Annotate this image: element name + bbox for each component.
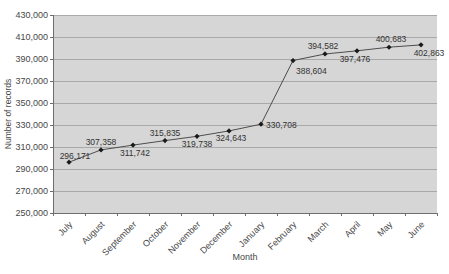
svg-text:April: April [343, 219, 363, 239]
svg-text:319,738: 319,738 [182, 139, 213, 149]
line-chart: 250,000270,000290,000310,000330,000350,0… [0, 0, 449, 274]
svg-text:June: June [406, 219, 427, 240]
svg-text:March: March [306, 219, 331, 244]
svg-text:296,171: 296,171 [60, 151, 91, 161]
svg-text:324,643: 324,643 [216, 133, 247, 143]
svg-text:307,358: 307,358 [86, 137, 117, 147]
svg-text:390,000: 390,000 [15, 54, 48, 64]
svg-text:370,000: 370,000 [15, 76, 48, 86]
chart-canvas: 250,000270,000290,000310,000330,000350,0… [0, 0, 449, 274]
svg-text:330,000: 330,000 [15, 120, 48, 130]
svg-text:310,000: 310,000 [15, 142, 48, 152]
svg-text:October: October [141, 219, 171, 249]
svg-text:February: February [266, 219, 299, 252]
svg-text:430,000: 430,000 [15, 10, 48, 20]
svg-text:311,742: 311,742 [120, 148, 150, 158]
svg-text:315,835: 315,835 [150, 128, 181, 138]
svg-text:400,683: 400,683 [376, 34, 407, 44]
svg-text:January: January [237, 219, 267, 249]
svg-text:388,604: 388,604 [296, 66, 327, 76]
svg-text:410,000: 410,000 [15, 32, 48, 42]
svg-text:330,708: 330,708 [266, 120, 297, 130]
svg-text:August: August [80, 219, 107, 246]
svg-text:290,000: 290,000 [15, 164, 48, 174]
x-axis-title: Month [203, 252, 287, 262]
svg-text:November: November [166, 219, 202, 255]
svg-text:402,863: 402,863 [414, 48, 445, 58]
svg-text:July: July [56, 219, 75, 238]
svg-text:September: September [100, 219, 138, 257]
svg-text:397,476: 397,476 [340, 54, 371, 64]
svg-text:250,000: 250,000 [15, 208, 48, 218]
svg-text:394,582: 394,582 [308, 41, 339, 51]
svg-text:May: May [375, 219, 394, 238]
svg-text:350,000: 350,000 [15, 98, 48, 108]
y-axis-title: Number of records [3, 64, 15, 164]
svg-text:December: December [198, 219, 234, 255]
svg-text:270,000: 270,000 [15, 186, 48, 196]
